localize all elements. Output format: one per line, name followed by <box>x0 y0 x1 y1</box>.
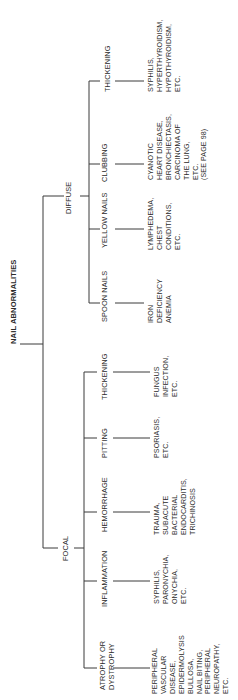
diffuse-thickening-desc: SYPHILIS, HYPERTHYROIDISM, HYPOTHYROIDIS… <box>147 20 183 92</box>
yellow-nails-label: YELLOW NAILS <box>101 193 110 248</box>
hemorrhage-label: HEMORRHAGE <box>101 477 110 532</box>
tree-connector-lines <box>0 0 238 700</box>
atrophy-dystrophy-label: ATROPHY OR DYSTROPHY <box>99 641 116 690</box>
clubbing-desc: CYANOTIC HEART DISEASE, BRONCHIECTASIS, … <box>147 114 209 180</box>
atrophy-dystrophy-desc: PERIPHERAL VASCULAR DISEASE, EPIDERMOLYS… <box>151 635 231 694</box>
branch-focal-label: FOCAL <box>62 536 71 561</box>
branch-diffuse-label: DIFFUSE <box>65 182 74 214</box>
pitting-label: PITTING <box>101 428 110 458</box>
focal-thickening-desc: FUNGUS INFECTION, ETC. <box>153 356 180 397</box>
hemorrhage-desc: TRAUMA, SUBACUTE BACTERIAL ENDOCARDITIS,… <box>153 478 198 535</box>
inflammation-label: INFLAMMATION <box>101 551 110 608</box>
pitting-desc: PSORIASIS, ETC. <box>153 417 171 458</box>
yellow-nails-desc: LYMPHEDEMA, CHEST CONDITIONS, ETC. <box>147 198 183 250</box>
spoon-nails-desc: IRON DEFICIENCY ANEMIA <box>147 279 174 323</box>
clubbing-label: CLUBBING <box>101 143 110 182</box>
focal-thickening-label: THICKENING <box>101 353 110 400</box>
root-title: NAIL ABNORMALITIES <box>10 260 19 345</box>
inflammation-desc: SYPHILIS, PARONYCHIA, ONYCHIA, ETC. <box>153 555 189 604</box>
spoon-nails-label: SPOON NAILS <box>101 271 110 322</box>
diffuse-thickening-label: THICKENING <box>104 45 113 92</box>
